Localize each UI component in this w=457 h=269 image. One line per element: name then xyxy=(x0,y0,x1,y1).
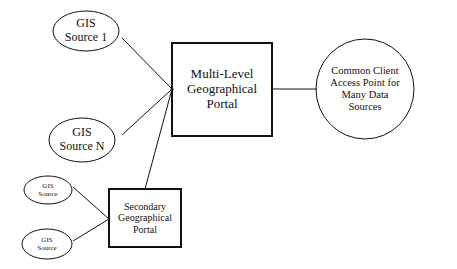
gis-source-1-label: GIS Source 1 xyxy=(53,11,119,51)
gis-source-n-label: GIS Source N xyxy=(49,118,115,162)
multi-level-portal-label: Multi-Level Geographical Portal xyxy=(174,45,270,134)
gis-source-a-label: GIS Source xyxy=(24,176,72,204)
diagram-canvas: GIS Source 1 GIS Source N Multi-Level Ge… xyxy=(0,0,457,269)
edge-sourceB-to-secondary xyxy=(73,219,109,241)
edge-secondary-to-portal xyxy=(145,89,172,189)
secondary-portal-label: Secondary Geographical Portal xyxy=(110,190,180,246)
edge-sourceA-to-secondary xyxy=(73,187,109,219)
gis-source-b-label: GIS Source xyxy=(22,229,72,259)
edge-sourceN-to-portal xyxy=(122,89,172,135)
common-client-label: Common Client Access Point for Many Data… xyxy=(318,39,412,139)
edge-source1-to-portal xyxy=(122,38,172,89)
